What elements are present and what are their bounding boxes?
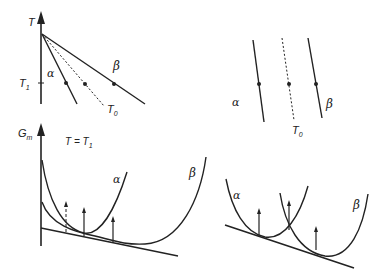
beta-point (112, 82, 116, 86)
g-axis-label: Gm (18, 127, 33, 141)
figure: T T1 α β T0 α β T0 Gm T = T1 (0, 0, 382, 278)
common-tangent (225, 225, 354, 268)
alpha-label: α (233, 189, 241, 202)
condition-label: T = T1 (65, 136, 93, 149)
beta-label: β (112, 59, 120, 73)
top-left-phase-diagram: T T1 α β T0 (19, 11, 145, 117)
beta-label: β (352, 198, 360, 212)
alpha-label: α (113, 173, 121, 186)
arrow-head-icon (82, 207, 86, 213)
t0-point (83, 82, 87, 86)
t0-line (282, 38, 294, 120)
arrow-head-icon (111, 216, 115, 222)
beta-line (308, 38, 322, 118)
beta-gibbs-curve (42, 157, 206, 244)
beta-solvus-line (42, 34, 145, 104)
top-right-phase-diagram: α β T0 (232, 38, 333, 138)
alpha-line (253, 40, 264, 122)
alpha-point (64, 81, 68, 85)
beta-point (314, 82, 318, 86)
beta-label: β (325, 97, 333, 111)
arrow-head-icon (287, 200, 291, 206)
g-axis-arrow-icon (37, 123, 45, 136)
beta-label: β (188, 166, 196, 180)
t0-label: T0 (107, 103, 118, 117)
arrow-head-icon (314, 226, 318, 232)
bottom-left-gibbs-diagram: Gm T = T1 α β (18, 123, 206, 256)
bottom-right-gibbs-diagram: α β (225, 179, 368, 268)
t1-label: T1 (19, 77, 30, 91)
alpha-label: α (47, 67, 55, 80)
diagram-svg: T T1 α β T0 α β T0 Gm T = T1 (0, 0, 382, 278)
arrow-head-icon (257, 208, 261, 214)
alpha-label: α (232, 96, 240, 109)
alpha-point (257, 82, 261, 86)
alpha-gibbs-curve (226, 179, 308, 237)
arrow-head-icon (64, 201, 68, 207)
t0-point (287, 82, 291, 86)
t-axis-label: T (28, 16, 36, 28)
t0-label: T0 (292, 124, 303, 138)
t-axis-arrow-icon (37, 11, 45, 24)
